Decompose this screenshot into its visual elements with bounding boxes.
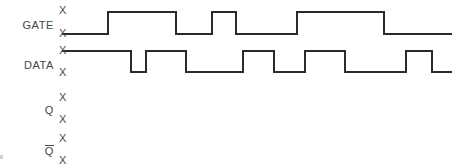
- x-marker-q-high: X: [59, 92, 66, 103]
- signal-label-data-text: DATA: [24, 59, 54, 71]
- x-marker-data-high: X: [59, 45, 66, 56]
- waveform-canvas: [0, 0, 462, 168]
- signal-label-gate: GATE: [0, 19, 54, 31]
- x-marker-qbar-low: X: [59, 155, 66, 166]
- x-marker-data-low: X: [59, 67, 66, 78]
- x-marker-q-low: X: [59, 114, 66, 125]
- signal-label-gate-text: GATE: [22, 19, 54, 31]
- signal-label-qbar: Q: [0, 145, 54, 158]
- x-marker-qbar-high: X: [59, 133, 66, 144]
- signal-label-q-text: Q: [45, 104, 54, 116]
- x-marker-gate-high: X: [59, 5, 66, 16]
- x-marker-gate-low: X: [59, 28, 66, 39]
- signal-label-data: DATA: [0, 59, 54, 71]
- waveform-data: [62, 51, 452, 72]
- timing-diagram: GATE DATA Q Q XXXXXXXX: [0, 0, 462, 168]
- signal-label-qbar-text: Q: [45, 145, 54, 158]
- waveform-gate: [62, 12, 452, 34]
- signal-label-q: Q: [0, 104, 54, 116]
- page-edge-artifact: [0, 155, 3, 159]
